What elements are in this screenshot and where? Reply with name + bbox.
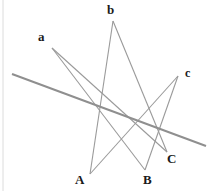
vertex-label-B: B — [143, 173, 152, 186]
geometry-canvas — [0, 0, 209, 191]
hexagon-chords — [52, 21, 178, 174]
chord-b-C — [113, 21, 167, 152]
vertex-label-c: c — [185, 67, 190, 79]
chord-b-A — [90, 21, 113, 174]
vertex-label-C: C — [167, 152, 176, 165]
chord-c-A — [90, 76, 178, 174]
chord-a-B — [52, 48, 145, 170]
pascal-line — [12, 74, 206, 146]
chord-a-C — [52, 48, 167, 152]
vertex-label-a: a — [38, 30, 45, 43]
vertex-label-A: A — [75, 173, 84, 186]
vertex-label-b: b — [107, 3, 114, 16]
pascal-theorem-figure: a b c A B C — [0, 0, 209, 191]
